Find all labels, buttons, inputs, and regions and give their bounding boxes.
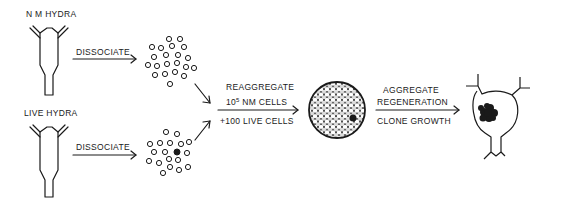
nm-hydra-label: N M HYDRA	[26, 10, 76, 19]
regeneration-label: REGENERATION	[377, 98, 448, 107]
nm-hydra-icon	[30, 26, 68, 95]
live-cells-cluster	[146, 129, 191, 175]
live-cell-marker-icon	[350, 115, 357, 122]
live-cells-label: +100 LIVE CELLS	[220, 117, 294, 126]
aggregate-label: AGGREGATE	[383, 86, 439, 95]
nm-cells-count: 10	[226, 97, 236, 107]
nm-cells-unit: NM CELLS	[240, 97, 288, 107]
nm-cells-label: 105 NM CELLS	[226, 97, 287, 107]
live-cell-marker-icon	[174, 149, 180, 155]
reaggregate-arrow	[218, 106, 298, 114]
dissociate-top-label: DISSOCIATE	[76, 48, 130, 57]
regeneration-arrow	[376, 106, 459, 114]
aggregate-ball-icon	[309, 82, 365, 138]
clone-cluster-icon	[478, 103, 498, 122]
converge-arrow-top	[195, 84, 210, 103]
diagram-canvas: N M HYDRA LIVE HYDRA DISSOCIATE DISSOCIA…	[0, 0, 563, 207]
reaggregate-label: REAGGREGATE	[226, 83, 294, 92]
regenerated-hydra-icon	[466, 74, 530, 159]
dissociate-bottom-label: DISSOCIATE	[76, 143, 130, 152]
live-hydra-icon	[30, 125, 68, 197]
dissociate-arrow-bottom	[73, 151, 136, 159]
clone-growth-label: CLONE GROWTH	[377, 117, 451, 126]
live-hydra-label: LIVE HYDRA	[24, 109, 78, 118]
nm-cells-cluster	[145, 36, 196, 86]
converge-arrow-bottom	[195, 121, 210, 140]
